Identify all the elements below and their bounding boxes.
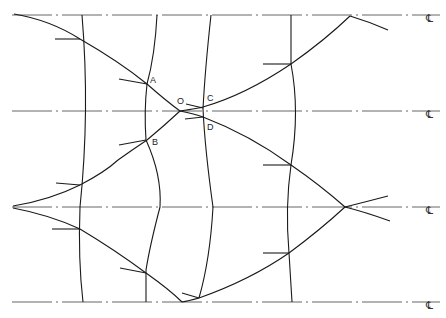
vertical-curve-1 [79,15,85,302]
tick-O-lower [185,117,203,119]
tick-O-upper [186,104,203,108]
diagonal-curves [13,14,390,302]
curve-right-cusp-to-bottom [182,207,345,302]
label-B: B [152,137,158,147]
curve-top-left-to-O [14,14,180,111]
characteristic-network-diagram: ℄ ℄ ℄ ℄ [0,0,446,318]
tick-B [119,140,146,145]
centerline-symbol-4: ℄ [425,299,433,312]
curve-right-cusp-lower-tail [345,207,390,221]
centerline-symbol-1: ℄ [425,12,433,25]
curve-top-right-tail [350,16,388,30]
tick-left-upper [56,183,80,185]
centerline-symbol-2: ℄ [425,108,433,121]
centerline-symbol-3: ℄ [425,204,433,217]
label-D: D [207,122,214,132]
tick-bottom-center [182,293,199,298]
curve-left-cusp-to-B [13,160,118,206]
label-O-upper: O [177,96,184,106]
label-C: C [207,93,214,103]
curve-right-cusp-upper-tail [345,196,388,207]
curve-B-to-O [118,111,180,160]
vertical-curve-4 [287,15,295,302]
label-A: A [150,75,156,85]
tick-A [119,79,147,84]
vertical-curve-2 [145,15,160,302]
centerline-symbols: ℄ ℄ ℄ ℄ [425,12,433,312]
curve-O-to-right-cusp [180,111,345,207]
vertical-curve-3 [199,15,213,298]
tick-marks [52,39,291,298]
centerlines [12,15,440,302]
